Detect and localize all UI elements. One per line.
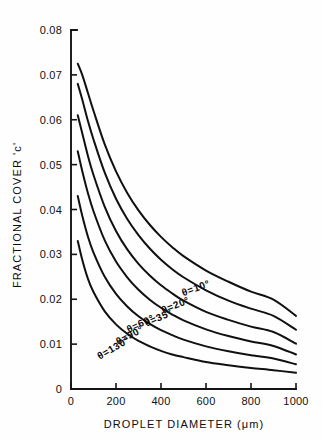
data-curve-2: [78, 115, 296, 343]
x-tick-label: 600: [197, 395, 216, 407]
x-tick-label: 200: [107, 395, 126, 407]
curve-label-5: θ=130°: [95, 334, 131, 361]
y-axis-title: FRACTIONAL COVER 'c': [11, 142, 23, 288]
y-tick-label: 0.01: [40, 338, 62, 350]
y-tick-label: 0.05: [40, 159, 62, 171]
data-curves: [78, 64, 296, 373]
x-tick-label: 400: [152, 395, 171, 407]
x-tick-label: 800: [242, 395, 261, 407]
y-tick-label: 0.07: [40, 69, 62, 81]
chart-plot-area: 00.010.020.030.040.050.060.070.08 020040…: [0, 0, 322, 441]
data-curve-3: [78, 151, 296, 354]
y-tick-label: 0.03: [40, 248, 62, 260]
y-tick-label: 0: [56, 383, 62, 395]
y-tick-label: 0.02: [40, 293, 62, 305]
y-tick-label: 0.08: [40, 24, 62, 36]
y-axis-tick-labels: 00.010.020.030.040.050.060.070.08: [40, 24, 62, 395]
x-axis-title: DROPLET DIAMETER (μm): [104, 418, 265, 430]
y-tick-label: 0.06: [40, 114, 62, 126]
x-tick-label: 0: [68, 395, 74, 407]
x-axis-tick-labels: 02004006008001000: [68, 395, 309, 407]
data-curve-0: [78, 64, 296, 316]
chart-figure: 00.010.020.030.040.050.060.070.08 020040…: [0, 0, 322, 441]
axis-frame: [71, 30, 296, 389]
y-tick-label: 0.04: [40, 204, 62, 216]
x-tick-label: 1000: [283, 395, 308, 407]
